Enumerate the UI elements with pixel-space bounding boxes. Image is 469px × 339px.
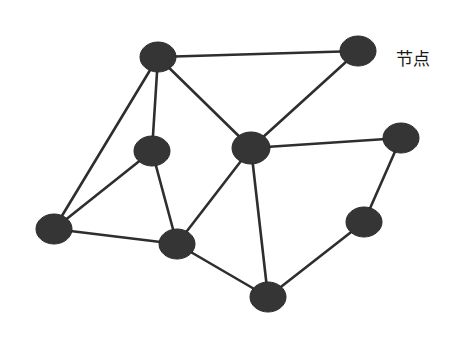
edge-n1-n4: [158, 57, 251, 148]
edge-n1-n2: [158, 51, 358, 57]
node-n7: [159, 229, 195, 259]
node-n6: [36, 214, 72, 244]
edge-n4-n5: [251, 138, 401, 148]
edge-n4-n9: [251, 148, 268, 297]
edge-layer: [54, 51, 401, 297]
node-layer: [36, 36, 419, 312]
node-n4: [232, 132, 270, 164]
node-label: 节点: [396, 45, 430, 70]
node-n8: [346, 207, 382, 237]
edge-n3-n6: [54, 151, 152, 229]
edge-n6-n7: [54, 229, 177, 244]
node-n9: [250, 282, 286, 312]
node-n1: [140, 42, 176, 72]
edge-n2-n4: [251, 51, 358, 148]
edge-n4-n7: [177, 148, 251, 244]
edge-n8-n9: [268, 222, 364, 297]
node-n2: [340, 36, 376, 66]
node-n5: [383, 123, 419, 153]
node-n3: [134, 136, 170, 166]
